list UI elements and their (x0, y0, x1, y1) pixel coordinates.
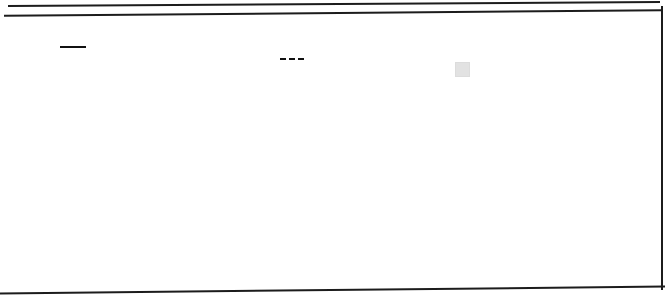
legend-item-this-fund (60, 46, 93, 48)
chart-legend (0, 16, 665, 66)
page-border-top-rule (8, 1, 660, 7)
chart-page (0, 0, 665, 302)
solid-line-swatch-icon (60, 46, 86, 48)
page-border-bottom-rule (0, 286, 665, 295)
chart-plot-area (0, 60, 665, 260)
chart-svg (0, 60, 665, 260)
